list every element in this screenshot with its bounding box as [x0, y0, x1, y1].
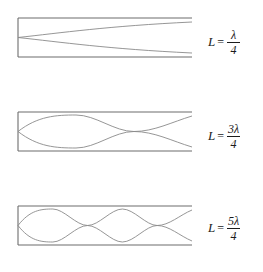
fraction-denominator: 4	[230, 229, 238, 242]
standing-wave-figure: L = λ 4 L = 3λ	[0, 0, 263, 272]
wave-envelope	[18, 209, 192, 242]
wave-envelope	[18, 115, 192, 148]
fraction-numerator: 3λ	[227, 123, 240, 136]
fraction-denominator: 4	[230, 137, 238, 150]
equation-first-harmonic: L = λ 4	[208, 20, 262, 64]
tube-diagram-third-harmonic	[12, 100, 198, 170]
tube-outline	[18, 206, 192, 245]
equation-operator: =	[217, 35, 224, 50]
equation-fifth-harmonic: L = 5λ 4	[208, 206, 262, 250]
equation-lhs: L	[208, 220, 215, 236]
panel-first-harmonic: L = λ 4	[0, 6, 263, 88]
equation-lhs: L	[208, 128, 215, 144]
fraction-numerator: λ	[230, 29, 237, 42]
equation-operator: =	[217, 221, 224, 236]
panel-third-harmonic: L = 3λ 4	[0, 100, 263, 182]
equation-lhs: L	[208, 34, 215, 50]
fraction-denominator: 4	[230, 43, 238, 56]
equation-operator: =	[217, 129, 224, 144]
equation-fraction: λ 4	[227, 29, 240, 56]
equation-third-harmonic: L = 3λ 4	[208, 114, 262, 158]
equation-fraction: 3λ 4	[227, 123, 240, 150]
wave-envelope	[18, 22, 192, 53]
panel-fifth-harmonic: L = 5λ 4	[0, 192, 263, 272]
tube-diagram-first-harmonic	[12, 6, 198, 76]
tube-diagram-fifth-harmonic	[12, 192, 198, 262]
fraction-numerator: 5λ	[227, 215, 240, 228]
equation-fraction: 5λ 4	[227, 215, 240, 242]
